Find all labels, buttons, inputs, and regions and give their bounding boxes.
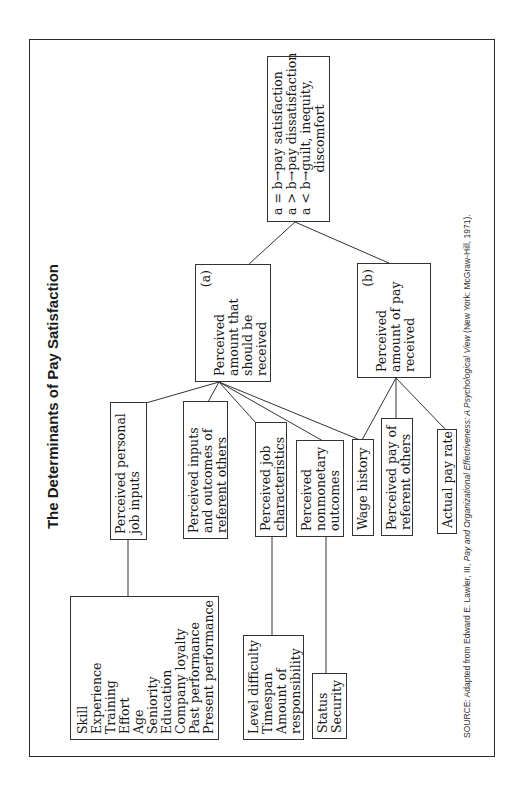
factor-actual-pay-rate: Actual pay rate xyxy=(437,429,457,534)
list-item: responsibility xyxy=(289,641,303,734)
list-item: Company loyalty xyxy=(174,602,188,734)
list-item: Education xyxy=(160,602,174,734)
amount-received-box: (b) Perceived amount of pay received xyxy=(357,263,431,378)
factor-line: referent others xyxy=(399,424,413,530)
node-b-line: amount of pay xyxy=(389,269,403,372)
outcome-less: a < b→guilt, inequity, xyxy=(299,62,313,215)
list-item: Effort xyxy=(118,602,132,734)
list-item: Status xyxy=(316,679,330,733)
factor-line: referent others xyxy=(215,407,229,533)
factor-line: nonmonetary xyxy=(314,446,328,531)
list-item: Experience xyxy=(90,602,104,734)
diagram-canvas: The Determinants of Pay Satisfaction a =… xyxy=(0,0,524,793)
factor-line: characteristics xyxy=(273,428,287,531)
list-item: Present performance xyxy=(202,602,216,734)
outcome-greater: a > b→pay dissatisfaction xyxy=(285,62,299,215)
factor-line: Actual pay rate xyxy=(441,435,455,528)
factor-personal-job-inputs: Perceived personal job inputs xyxy=(110,402,147,540)
list-item: Level difficulty xyxy=(247,641,261,734)
factor-nonmonetary-outcomes: Perceived nonmonetary outcomes xyxy=(296,440,344,537)
list-item: Security xyxy=(330,679,344,733)
amount-should-receive-box: (a) Perceived amount that should be rece… xyxy=(195,264,271,382)
source-title: Pay and Organizational Effectiveness: A … xyxy=(462,335,472,561)
list-item: Age xyxy=(132,602,146,734)
node-a-line: received xyxy=(255,270,269,376)
list-item: Past performance xyxy=(188,602,202,734)
factor-job-characteristics: Perceived job characteristics xyxy=(255,422,287,537)
factor-line: Perceived inputs xyxy=(187,407,201,533)
factor-wage-history: Wage history xyxy=(352,439,374,536)
factor-line: and outcomes of xyxy=(201,407,215,533)
factor-line: Perceived personal xyxy=(114,408,128,534)
list-item: Training xyxy=(104,602,118,734)
node-a-line: should be xyxy=(241,270,255,376)
node-b-line: received xyxy=(403,269,417,372)
node-a-line: amount that xyxy=(227,270,241,376)
list-item: Timespan xyxy=(261,641,275,734)
node-a-line: Perceived xyxy=(213,270,227,376)
factor-line: job inputs xyxy=(128,408,142,534)
personal-inputs-list: Skill Experience Training Effort Age Sen… xyxy=(70,596,219,740)
node-b-label: (b) xyxy=(361,269,375,372)
nonmonetary-list: Status Security xyxy=(312,673,347,739)
job-characteristics-list: Level difficulty Timespan Amount of resp… xyxy=(243,635,304,740)
node-b-line: Perceived xyxy=(375,269,389,372)
list-item: Skill xyxy=(76,602,90,734)
source-suffix: (New York: McGraw-Hill, 1971). xyxy=(462,214,472,335)
factor-inputs-outcomes-others: Perceived inputs and outcomes of referen… xyxy=(183,401,228,539)
node-a-label: (a) xyxy=(199,270,213,376)
list-item: Seniority xyxy=(146,602,160,734)
factor-line: Perceived pay of xyxy=(385,424,399,530)
pay-satisfaction-outcome-box: a = b→pay satisfaction a > b→pay dissati… xyxy=(267,56,330,222)
factor-pay-of-others: Perceived pay of referent others xyxy=(381,418,413,536)
factor-line: Perceived xyxy=(300,446,314,531)
list-item: Amount of xyxy=(275,641,289,734)
factor-line: Wage history xyxy=(356,445,370,530)
outcome-less-cont: discomfort xyxy=(313,62,327,215)
source-prefix: SOURCE: Adapted from Edward E. Lawler, I… xyxy=(462,561,472,738)
outcome-equal: a = b→pay satisfaction xyxy=(271,62,285,215)
factor-line: outcomes xyxy=(328,446,342,531)
factor-line: Perceived job xyxy=(259,428,273,531)
source-citation: SOURCE: Adapted from Edward E. Lawler, I… xyxy=(462,214,472,738)
